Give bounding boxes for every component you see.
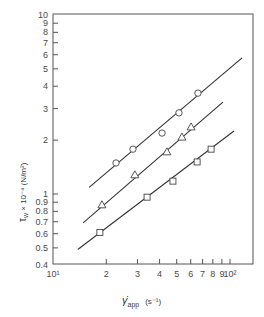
y-tick-label: 0.4 [35,260,48,270]
x-tick-label: 8 [210,269,215,279]
y-tick-label: 1 [43,189,48,199]
y-axis-title: τw × 10⁻⁴ (N/m²) [17,162,29,222]
y-tick-label: 7 [43,38,48,48]
square-marker [97,229,103,235]
y-tick-label: 2 [43,135,48,145]
circles-fit-line [89,58,242,187]
circle-marker [130,146,136,152]
y-tick-label: 3 [43,104,48,114]
x-axis-title: γ̇app(s⁻¹) [122,294,162,309]
x-axis-ticks: 10¹2345678910² [46,259,236,279]
square-marker [170,178,176,184]
x-tick-label: 3 [135,269,140,279]
x-tick-label: 2 [104,269,109,279]
y-tick-label: 0.8 [35,206,48,216]
x-tick-label: 10² [223,269,236,279]
shear-stress-vs-shear-rate-chart: 10¹2345678910² 0.40.50.60.70.80.91234567… [0,0,264,317]
square-marker [144,194,150,200]
y-tick-label: 8 [43,27,48,37]
circle-marker [113,160,119,166]
square-marker [208,146,214,152]
fit-lines [78,58,242,250]
data-markers [97,90,214,235]
x-tick-label: 10¹ [46,269,59,279]
y-tick-label: 0.6 [35,229,48,239]
y-tick-label: 0.7 [35,217,48,227]
y-tick-label: 4 [43,81,48,91]
y-tick-label: 10 [38,10,48,20]
x-tick-label: 5 [174,269,179,279]
y-tick-label: 5 [43,64,48,74]
x-tick-label: 6 [188,269,193,279]
y-axis-ticks: 0.40.50.60.70.80.912345678910 [35,10,58,270]
triangle-marker [187,123,195,130]
circle-marker [176,110,182,116]
circle-marker [195,90,201,96]
triangle-marker [178,133,186,140]
x-tick-label: 4 [157,269,162,279]
triangle-marker [163,148,171,155]
y-tick-label: 6 [43,50,48,60]
x-tick-label: 7 [200,269,205,279]
triangle-marker [131,171,139,178]
square-marker [194,159,200,165]
y-tick-label: 0.5 [35,243,48,253]
circle-marker [159,130,165,136]
